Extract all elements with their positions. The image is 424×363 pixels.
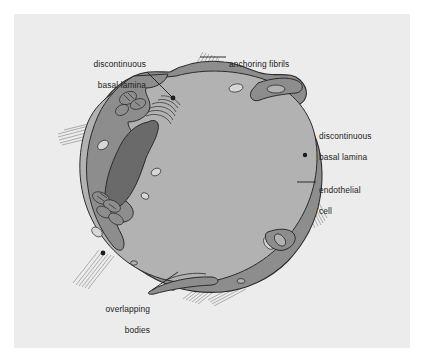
label-discontinuous-basal-lamina-top: discontinuous basal lamina: [18, 48, 146, 90]
label-line-1: overlapping: [106, 304, 150, 314]
label-line-1: discontinuous: [93, 59, 146, 69]
label-line-2: basal lamina: [98, 80, 146, 90]
label-line-1: anchoring fibrils: [229, 59, 289, 69]
anchoring-fibrils-left-lower: [73, 250, 114, 289]
label-anchoring-fibrils: anchoring fibrils: [229, 48, 349, 69]
label-endothelial-cell: endothelial cell: [319, 174, 419, 216]
figure-container: discontinuous basal lamina anchoring fib…: [0, 0, 424, 363]
label-line-2: cell: [319, 206, 332, 216]
label-line-1: discontinuous: [319, 131, 372, 141]
label-line-1: endothelial: [319, 185, 361, 195]
label-line-2: basal lamina: [319, 152, 367, 162]
label-overlapping-bodies: overlapping bodies: [22, 293, 150, 335]
label-discontinuous-basal-lamina-right: discontinuous basal lamina: [319, 120, 419, 162]
label-line-2: bodies: [125, 325, 150, 335]
